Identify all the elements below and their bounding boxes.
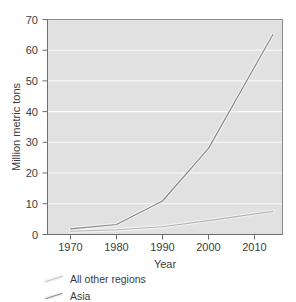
x-tick-label-1990: 1990 xyxy=(150,241,174,253)
y-tick-label-10: 10 xyxy=(26,198,38,210)
y-axis-title: Million metric tons xyxy=(10,82,22,171)
x-tick-label-1970: 1970 xyxy=(58,241,82,253)
y-tick-label-0: 0 xyxy=(32,229,38,241)
plot-area-background xyxy=(48,20,283,235)
x-axis-title: Year xyxy=(154,258,177,270)
y-tick-label-40: 40 xyxy=(26,106,38,118)
legend-label-all-other-regions: All other regions xyxy=(70,273,146,285)
y-tick-label-70: 70 xyxy=(26,14,38,26)
legend-label-asia: Asia xyxy=(70,290,91,302)
y-tick-label-60: 60 xyxy=(26,44,38,56)
x-tick-label-2000: 2000 xyxy=(196,241,220,253)
y-tick-label-20: 20 xyxy=(26,167,38,179)
chart-svg: 70 60 50 40 30 20 10 0 1970 1980 1990 20… xyxy=(0,0,296,302)
y-tick-label-50: 50 xyxy=(26,75,38,87)
x-tick-label-1980: 1980 xyxy=(104,241,128,253)
x-tick-label-2010: 2010 xyxy=(242,241,266,253)
y-tick-label-30: 30 xyxy=(26,136,38,148)
line-chart-figure: 70 60 50 40 30 20 10 0 1970 1980 1990 20… xyxy=(0,0,296,302)
